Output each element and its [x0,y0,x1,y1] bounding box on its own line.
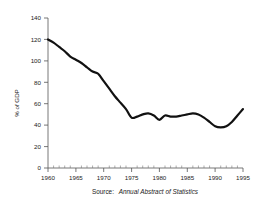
axes [48,18,243,168]
y-tick-label-80: 80 [34,79,41,86]
y-tick-label-0: 0 [38,164,42,171]
x-tick-label-1980: 1980 [153,174,167,181]
x-axis-ticks: 1960 1965 1970 1975 1980 1985 1990 1995 [41,168,250,181]
x-tick-label-1990: 1990 [208,174,222,181]
source-caption: Source: Annual Abstract of Statistics [92,188,199,195]
x-tick-label-1985: 1985 [180,174,194,181]
x-tick-label-1960: 1960 [41,174,55,181]
y-tick-label-60: 60 [34,100,41,107]
x-tick-label-1975: 1975 [125,174,139,181]
x-tick-label-1965: 1965 [69,174,83,181]
y-axis-title: % of GDP [13,89,20,117]
y-axis-ticks: 140 120 100 80 60 40 20 0 [31,14,48,171]
y-tick-label-100: 100 [31,57,42,64]
source-title: Annual Abstract of Statistics [118,188,199,195]
y-tick-label-120: 120 [31,36,42,43]
chart-figure: 140 120 100 80 60 40 20 0 % of GDP 1960 [0,0,265,201]
y-tick-label-40: 40 [34,121,41,128]
x-tick-label-1970: 1970 [97,174,111,181]
y-tick-label-140: 140 [31,14,42,21]
source-prefix: Source: [92,188,114,195]
series-line-public-debt [48,39,243,127]
x-tick-label-1995: 1995 [236,174,250,181]
line-chart: 140 120 100 80 60 40 20 0 % of GDP 1960 [0,0,265,201]
y-tick-label-20: 20 [34,143,41,150]
